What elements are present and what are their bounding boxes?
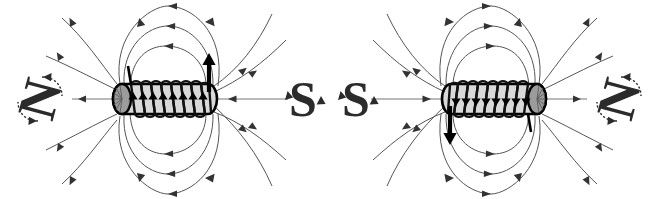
south-pole-letter: S bbox=[289, 71, 317, 127]
south-pole-letter: S bbox=[342, 71, 370, 127]
figure-canvas: N S bbox=[0, 0, 659, 199]
magnetic-field-figure: N S bbox=[0, 0, 659, 199]
north-pole-letter: N bbox=[585, 72, 653, 125]
left-pole-label-south: S bbox=[285, 71, 326, 127]
north-pole-letter: N bbox=[6, 72, 74, 125]
left-lead-top-left bbox=[128, 66, 131, 84]
left-pole-label-north: N bbox=[6, 72, 74, 125]
left-field-lines-outer-right bbox=[214, 14, 286, 186]
right-solenoid-diagram: N S bbox=[338, 3, 653, 197]
left-solenoid-diagram: N S bbox=[6, 3, 326, 197]
right-field-lines-outer-right bbox=[373, 14, 445, 186]
right-pole-label-north: N bbox=[585, 72, 653, 125]
right-pole-label-south: S bbox=[338, 71, 379, 127]
right-lead-bottom-left bbox=[528, 114, 531, 132]
